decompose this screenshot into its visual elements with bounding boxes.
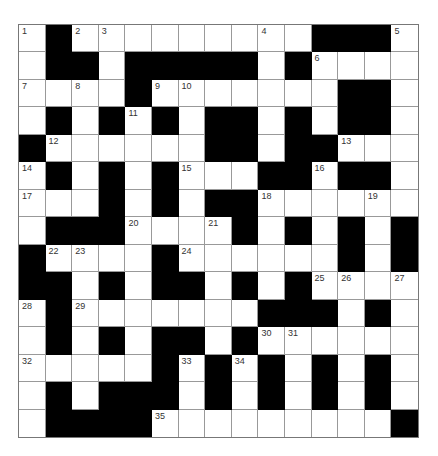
crossword-cell[interactable]: 22 <box>46 245 73 272</box>
crossword-cell[interactable] <box>125 190 152 217</box>
crossword-cell[interactable]: 2 <box>72 25 99 52</box>
crossword-cell[interactable]: 5 <box>391 25 418 52</box>
crossword-cell[interactable] <box>232 80 259 107</box>
crossword-cell[interactable]: 24 <box>179 245 206 272</box>
crossword-cell[interactable] <box>258 135 285 162</box>
crossword-cell[interactable] <box>365 245 392 272</box>
crossword-cell[interactable] <box>258 52 285 79</box>
crossword-cell[interactable] <box>19 107 46 134</box>
crossword-cell[interactable] <box>391 300 418 327</box>
crossword-cell[interactable] <box>232 300 259 327</box>
crossword-cell[interactable] <box>391 190 418 217</box>
crossword-cell[interactable] <box>125 25 152 52</box>
crossword-cell[interactable] <box>285 410 312 437</box>
crossword-cell[interactable] <box>285 382 312 409</box>
crossword-cell[interactable] <box>19 410 46 437</box>
crossword-cell[interactable] <box>205 25 232 52</box>
crossword-cell[interactable] <box>19 382 46 409</box>
crossword-cell[interactable] <box>258 410 285 437</box>
crossword-cell[interactable]: 27 <box>391 272 418 299</box>
crossword-cell[interactable] <box>152 135 179 162</box>
crossword-cell[interactable] <box>258 272 285 299</box>
crossword-cell[interactable] <box>125 272 152 299</box>
crossword-cell[interactable] <box>205 300 232 327</box>
crossword-cell[interactable]: 31 <box>285 327 312 354</box>
crossword-cell[interactable] <box>391 162 418 189</box>
crossword-cell[interactable] <box>365 410 392 437</box>
crossword-cell[interactable] <box>179 25 206 52</box>
crossword-cell[interactable]: 30 <box>258 327 285 354</box>
crossword-cell[interactable] <box>72 382 99 409</box>
crossword-cell[interactable] <box>338 382 365 409</box>
crossword-cell[interactable] <box>365 135 392 162</box>
crossword-cell[interactable] <box>338 410 365 437</box>
crossword-cell[interactable] <box>179 190 206 217</box>
crossword-cell[interactable] <box>365 52 392 79</box>
crossword-cell[interactable] <box>285 80 312 107</box>
crossword-cell[interactable]: 17 <box>19 190 46 217</box>
crossword-cell[interactable] <box>99 300 126 327</box>
crossword-cell[interactable] <box>258 245 285 272</box>
crossword-cell[interactable]: 29 <box>72 300 99 327</box>
crossword-cell[interactable] <box>258 217 285 244</box>
crossword-cell[interactable] <box>232 382 259 409</box>
crossword-cell[interactable]: 4 <box>258 25 285 52</box>
crossword-cell[interactable]: 1 <box>19 25 46 52</box>
crossword-cell[interactable] <box>232 245 259 272</box>
crossword-cell[interactable] <box>312 107 339 134</box>
crossword-cell[interactable] <box>125 327 152 354</box>
crossword-cell[interactable] <box>179 135 206 162</box>
crossword-cell[interactable] <box>205 245 232 272</box>
crossword-cell[interactable] <box>125 245 152 272</box>
crossword-cell[interactable]: 32 <box>19 355 46 382</box>
crossword-cell[interactable] <box>391 135 418 162</box>
crossword-cell[interactable] <box>285 245 312 272</box>
crossword-cell[interactable] <box>72 272 99 299</box>
crossword-cell[interactable] <box>312 217 339 244</box>
crossword-cell[interactable] <box>391 327 418 354</box>
crossword-cell[interactable] <box>365 327 392 354</box>
crossword-cell[interactable] <box>312 327 339 354</box>
crossword-cell[interactable]: 8 <box>72 80 99 107</box>
crossword-cell[interactable] <box>205 327 232 354</box>
crossword-cell[interactable] <box>179 410 206 437</box>
crossword-cell[interactable] <box>232 25 259 52</box>
crossword-cell[interactable] <box>72 190 99 217</box>
crossword-cell[interactable]: 26 <box>338 272 365 299</box>
crossword-cell[interactable] <box>285 190 312 217</box>
crossword-cell[interactable]: 16 <box>312 162 339 189</box>
crossword-cell[interactable] <box>125 355 152 382</box>
crossword-cell[interactable] <box>391 355 418 382</box>
crossword-cell[interactable] <box>152 217 179 244</box>
crossword-cell[interactable] <box>285 25 312 52</box>
crossword-cell[interactable] <box>72 107 99 134</box>
crossword-cell[interactable] <box>365 217 392 244</box>
crossword-cell[interactable] <box>338 300 365 327</box>
crossword-cell[interactable]: 3 <box>99 25 126 52</box>
crossword-cell[interactable] <box>285 355 312 382</box>
crossword-cell[interactable]: 25 <box>312 272 339 299</box>
crossword-cell[interactable]: 33 <box>179 355 206 382</box>
crossword-cell[interactable] <box>125 135 152 162</box>
crossword-cell[interactable]: 13 <box>338 135 365 162</box>
crossword-cell[interactable] <box>232 410 259 437</box>
crossword-cell[interactable] <box>391 382 418 409</box>
crossword-cell[interactable] <box>19 52 46 79</box>
crossword-cell[interactable] <box>19 217 46 244</box>
crossword-cell[interactable]: 6 <box>312 52 339 79</box>
crossword-cell[interactable] <box>338 327 365 354</box>
crossword-cell[interactable] <box>179 300 206 327</box>
crossword-cell[interactable]: 15 <box>179 162 206 189</box>
crossword-cell[interactable] <box>338 190 365 217</box>
crossword-cell[interactable] <box>99 355 126 382</box>
crossword-cell[interactable]: 9 <box>152 80 179 107</box>
crossword-cell[interactable]: 7 <box>19 80 46 107</box>
crossword-cell[interactable] <box>72 327 99 354</box>
crossword-cell[interactable]: 34 <box>232 355 259 382</box>
crossword-cell[interactable] <box>125 300 152 327</box>
crossword-cell[interactable]: 28 <box>19 300 46 327</box>
crossword-cell[interactable] <box>205 272 232 299</box>
crossword-cell[interactable] <box>365 272 392 299</box>
crossword-cell[interactable] <box>338 52 365 79</box>
crossword-cell[interactable] <box>46 80 73 107</box>
